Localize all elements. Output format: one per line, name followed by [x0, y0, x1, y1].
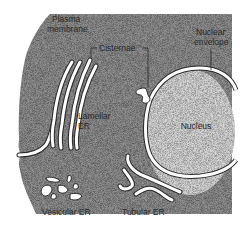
label-tubular-er: Tubular ER — [122, 207, 165, 217]
label-plasma-membrane-2: membrane — [47, 24, 88, 34]
label-nuclear-envelope-1: Nuclear — [196, 27, 225, 37]
label-nuclear-envelope-2: envelope — [194, 37, 229, 47]
label-lamellar-er-2: ER — [78, 121, 90, 131]
label-plasma-membrane-1: Plasma — [52, 14, 81, 24]
label-cisternae: Cisternae — [99, 43, 136, 53]
er-diagram: Plasma membrane Cisternae Nuclear envelo… — [0, 0, 246, 240]
label-vesicular-er: Vesicular ER — [42, 207, 91, 217]
label-nucleus: Nucleus — [181, 121, 212, 131]
label-lamellar-er-1: Lamellar — [78, 111, 111, 121]
